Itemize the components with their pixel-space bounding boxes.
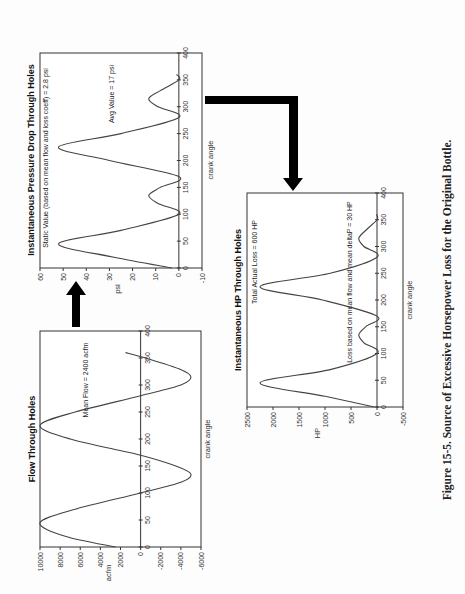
- x-tick-label: 200: [380, 294, 387, 306]
- x-tick-label: 150: [380, 321, 387, 333]
- pressure-xlabel: crank angle: [206, 141, 215, 180]
- y-tick-label: 0: [374, 412, 381, 416]
- figure-caption: Figure 15-5. Source of Excessive Horsepo…: [441, 140, 454, 501]
- x-tick-label: 250: [380, 267, 387, 279]
- x-tick-label: 300: [182, 101, 189, 113]
- y-tick-label: 50: [60, 273, 67, 281]
- x-tick-label: 0: [380, 405, 387, 409]
- x-tick-label: 250: [182, 128, 189, 140]
- y-tick-label: 500: [348, 412, 355, 424]
- x-tick-label: 250: [144, 406, 151, 418]
- flow-chart: 050100150200250300350400-6000-4000-20000…: [27, 325, 212, 581]
- x-tick-label: 50: [380, 376, 387, 384]
- x-tick-label: 100: [380, 348, 387, 360]
- y-tick-label: -6000: [198, 552, 205, 570]
- figure-page: 050100150200250300350400-6000-4000-20000…: [0, 0, 465, 594]
- y-tick-label: 2000: [270, 412, 277, 428]
- x-tick-label: 100: [182, 208, 189, 220]
- y-tick-label: -500: [400, 412, 407, 426]
- x-tick-label: 150: [182, 181, 189, 193]
- x-tick-label: 200: [182, 155, 189, 167]
- hp-xlabel: crank angle: [405, 281, 414, 320]
- arrow-pressure-to-hp: [205, 96, 303, 191]
- hp-annotation-mean: Loss based on mean flow and mean deltaP …: [346, 201, 353, 363]
- flow-chart-title: Flow Through Holes: [27, 396, 37, 483]
- y-tick-label: 60: [37, 273, 44, 281]
- x-tick-label: 400: [182, 47, 189, 59]
- y-tick-label: 4000: [97, 552, 104, 568]
- x-tick-label: 0: [182, 266, 189, 270]
- y-tick-label: -10: [199, 273, 206, 283]
- y-tick-label: 2500: [244, 412, 251, 428]
- y-tick-label: 2000: [117, 552, 124, 568]
- pressure-chart: 050100150200250300350400-100102030405060…: [26, 47, 215, 294]
- y-tick-label: 8000: [57, 552, 64, 568]
- y-tick-label: 6000: [77, 552, 84, 568]
- y-tick-label: 40: [83, 273, 90, 281]
- x-tick-label: 350: [380, 214, 387, 226]
- y-tick-label: 10000: [37, 552, 44, 572]
- y-tick-label: 20: [129, 273, 136, 281]
- hp-chart-title: Instantaneous HP Through Holes: [233, 229, 243, 371]
- x-tick-label: 200: [144, 433, 151, 445]
- hp-annotation-total: Total Actual Loss = 600 HP: [251, 220, 258, 304]
- y-tick-label: -4000: [177, 552, 184, 570]
- x-tick-label: 50: [182, 237, 189, 245]
- hp-ylabel: HP: [313, 428, 322, 438]
- x-tick-label: 0: [144, 545, 151, 549]
- arrow-flow-to-pressure: [66, 281, 86, 327]
- x-tick-label: 350: [182, 74, 189, 86]
- y-tick-label: 1500: [296, 412, 303, 428]
- flow-xlabel: crank angle: [203, 420, 212, 459]
- elbow-down-arrow-icon: [205, 96, 303, 191]
- pressure-ylabel: psi: [113, 284, 122, 294]
- x-tick-label: 300: [380, 241, 387, 253]
- x-tick-label: 400: [144, 325, 151, 337]
- pressure-annotation-avg: Avg Value = 17 psi: [108, 65, 116, 123]
- flow-ylabel: acfm: [104, 565, 113, 581]
- x-tick-label: 150: [144, 460, 151, 472]
- flow-annotation-mean: Mean Flow = 2400 acfm: [82, 342, 89, 417]
- y-tick-label: 1000: [322, 412, 329, 428]
- y-tick-label: 10: [152, 273, 159, 281]
- x-tick-label: 400: [380, 187, 387, 199]
- up-arrow-icon: [66, 281, 86, 327]
- x-tick-label: 100: [144, 487, 151, 499]
- y-tick-label: 0: [137, 552, 144, 556]
- x-tick-label: 300: [144, 379, 151, 391]
- pressure-annotation-static: Static Value (based on mean flow and los…: [42, 68, 50, 248]
- figure-canvas: 050100150200250300350400-6000-4000-20000…: [0, 0, 465, 594]
- y-tick-label: 0: [175, 273, 182, 277]
- pressure-chart-title: Instantaneous Pressure Drop Through Hole…: [26, 64, 36, 256]
- flow-plot-frame: [40, 331, 201, 547]
- x-tick-label: 50: [144, 516, 151, 524]
- hp-chart: 050100150200250300350400-500050010001500…: [233, 187, 414, 438]
- y-tick-label: 30: [106, 273, 113, 281]
- y-tick-label: -2000: [157, 552, 164, 570]
